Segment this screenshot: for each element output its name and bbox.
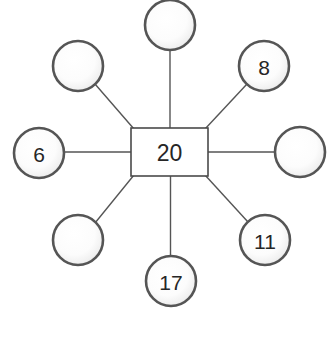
node-right[interactable] <box>275 127 325 177</box>
node-left[interactable]: 6 <box>14 128 64 178</box>
node-right-shape[interactable] <box>275 127 325 177</box>
edge-center-bottom-right <box>205 175 248 222</box>
node-left-label: 6 <box>33 143 45 166</box>
star-diagram-svg: 811176 20 <box>0 0 330 357</box>
node-bottom-right[interactable]: 11 <box>240 215 290 265</box>
edge-center-top-left <box>95 84 134 129</box>
edge-center-top-right <box>205 84 247 129</box>
node-bottom-left[interactable] <box>53 215 103 265</box>
node-top-left-shape[interactable] <box>53 41 103 91</box>
center-node[interactable]: 20 <box>131 128 208 176</box>
node-top[interactable] <box>145 0 195 50</box>
node-bottom[interactable]: 17 <box>146 256 196 306</box>
node-top-shape[interactable] <box>145 0 195 50</box>
node-top-right[interactable]: 8 <box>239 41 289 91</box>
edge-center-bottom-left <box>95 175 134 223</box>
star-diagram-canvas: 811176 20 <box>0 0 330 357</box>
node-bottom-label: 17 <box>159 271 182 294</box>
node-top-left[interactable] <box>53 41 103 91</box>
node-bottom-right-label: 11 <box>254 230 276 253</box>
node-top-right-label: 8 <box>258 56 270 79</box>
center-node-layer: 20 <box>131 128 208 176</box>
center-node-label: 20 <box>157 140 183 166</box>
node-bottom-left-shape[interactable] <box>53 215 103 265</box>
